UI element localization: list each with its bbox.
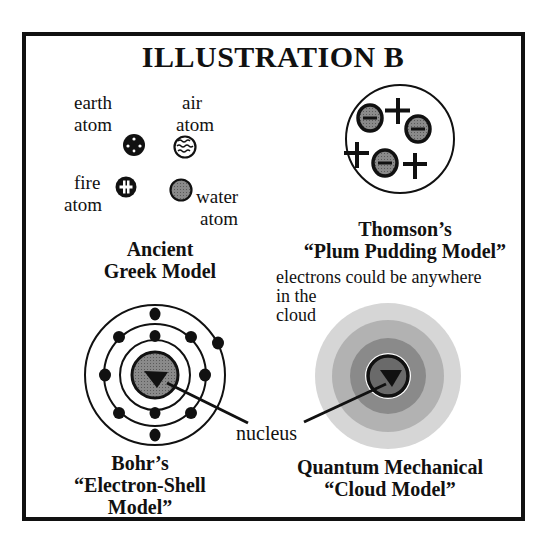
diagram-artwork (0, 0, 546, 548)
earth-atom-icon (123, 134, 145, 156)
fire-atom-icon (116, 177, 137, 198)
thomson-model-icon (344, 85, 454, 193)
electron-icon (373, 150, 397, 176)
electron-icon (406, 116, 430, 142)
water-atom-icon (171, 180, 192, 201)
cloud-model-icon (315, 303, 461, 449)
air-atom-icon (175, 137, 196, 158)
bohr-model-icon (85, 305, 225, 445)
electron-icon (358, 105, 382, 131)
